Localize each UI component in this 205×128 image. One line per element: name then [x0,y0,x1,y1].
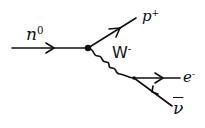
vertex-2-dot [132,76,136,80]
vertex-1-dot [85,45,91,51]
antineutrino-label: ν [173,100,183,117]
neutron-label: n0 [26,26,43,43]
proton-label: p+ [142,9,159,24]
w-boson-label: W- [112,44,131,61]
antineutrino-arrow-icon [152,86,158,94]
feynman-diagram: n0 p+ W- e- ν [0,0,205,128]
electron-label: e- [183,70,195,85]
